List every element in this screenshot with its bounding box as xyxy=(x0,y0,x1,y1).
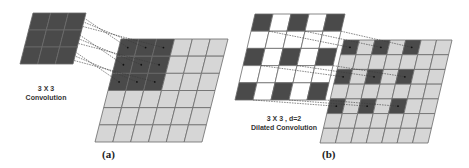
connector-endpoint xyxy=(154,81,156,83)
caption-dilated-convolution: 3 X 3 , d=2 Dilated Convolution xyxy=(244,114,324,132)
grid-cell-dark xyxy=(60,30,82,47)
grid-cell-dark xyxy=(64,13,86,30)
connector-endpoint xyxy=(380,46,382,48)
output-feature-map-grid xyxy=(95,39,228,142)
connector-endpoint xyxy=(127,47,129,49)
connector-endpoint xyxy=(118,81,120,83)
grid-cell-light xyxy=(184,125,206,142)
grid-cell-white xyxy=(319,31,341,48)
connector-line xyxy=(253,100,336,106)
caption-type: Convolution xyxy=(18,93,74,102)
dilated-kernel-5x5-grid xyxy=(235,14,345,100)
caption-type: Dilated Convolution xyxy=(244,123,324,132)
grid-cell-dark xyxy=(323,14,345,31)
grid-cell-dark xyxy=(55,47,77,64)
connector-endpoint xyxy=(335,105,337,107)
connector-endpoint xyxy=(397,105,399,107)
connector-endpoint xyxy=(145,47,147,49)
connector-endpoint xyxy=(163,47,165,49)
grid-cell-light xyxy=(413,128,432,143)
connector-endpoint xyxy=(366,105,368,107)
connector-endpoint xyxy=(349,46,351,48)
connector-line xyxy=(73,51,119,82)
connector-endpoint xyxy=(404,76,406,78)
connector-endpoint xyxy=(373,76,375,78)
grid-cell-light xyxy=(202,56,224,73)
connector-endpoint xyxy=(123,64,125,66)
grid-cell-light xyxy=(430,55,449,70)
connector-endpoint xyxy=(411,46,413,48)
grid-cell-dark xyxy=(315,48,337,65)
grid-cell-light xyxy=(423,84,442,99)
grid-cell-light xyxy=(419,99,438,114)
grid-cell-light xyxy=(197,73,219,90)
connector-endpoint xyxy=(140,64,142,66)
panel-standard-convolution xyxy=(20,13,228,142)
grid-cell-dark xyxy=(307,83,329,100)
caption-standard-convolution: 3 X 3 Convolution xyxy=(18,84,74,102)
panel-label-a: (a) xyxy=(102,148,115,160)
output-feature-map-grid xyxy=(320,40,452,143)
grid-cell-light xyxy=(433,40,452,55)
grid-cell-light xyxy=(189,108,211,125)
connector-endpoint xyxy=(158,64,160,66)
grid-cell-light xyxy=(206,39,228,56)
grid-cell-light xyxy=(193,91,215,108)
panel-label-b: (b) xyxy=(322,148,335,160)
kernel-3x3-grid xyxy=(20,13,86,64)
grid-cell-light xyxy=(416,114,435,129)
grid-cell-white xyxy=(311,66,333,83)
caption-kernel-size: 3 X 3 , d=2 xyxy=(244,114,324,123)
connector-endpoint xyxy=(136,81,138,83)
grid-cell-light xyxy=(426,69,445,84)
connector-endpoint xyxy=(342,76,344,78)
caption-kernel-size: 3 X 3 xyxy=(18,84,74,93)
